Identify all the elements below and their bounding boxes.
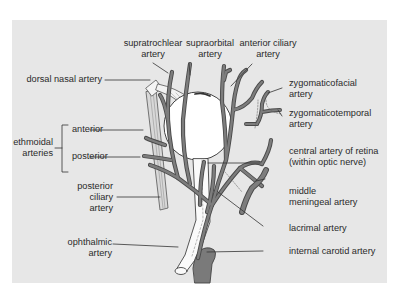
- label-line: central artery of retina: [289, 146, 378, 157]
- label-line: artery: [50, 248, 112, 259]
- label-line: ophthalmic: [50, 237, 112, 248]
- label-central-artery-of-retina: central artery of retina (within optic n…: [289, 146, 378, 168]
- label-line: anterior ciliary: [230, 38, 306, 49]
- label-line: middle: [289, 186, 357, 197]
- label-internal-carotid-artery: internal carotid artery: [289, 246, 375, 257]
- label-line: arteries: [2, 148, 53, 159]
- label-zygomaticofacial-artery: zygomaticofacial artery: [289, 78, 357, 100]
- label-line: meningeal artery: [289, 197, 357, 208]
- label-line: artery: [230, 49, 306, 60]
- label-zygomaticotemporal-artery: zygomaticotemporal artery: [289, 108, 371, 130]
- label-line: artery: [289, 119, 371, 130]
- label-line: artery: [289, 89, 357, 100]
- label-anterior-ciliary-artery: anterior ciliary artery: [230, 38, 306, 60]
- label-line: artery: [60, 203, 113, 214]
- label-line: zygomaticofacial: [289, 78, 357, 89]
- label-line: (within optic nerve): [289, 157, 378, 168]
- label-ethmoidal-anterior: anterior: [72, 124, 103, 135]
- label-dorsal-nasal-artery: dorsal nasal artery: [20, 74, 102, 85]
- label-lacrimal-artery: lacrimal artery: [289, 223, 347, 234]
- label-ophthalmic-artery: ophthalmic artery: [50, 237, 112, 259]
- label-posterior-ciliary-artery: posterior ciliary artery: [60, 181, 113, 214]
- label-line: ciliary: [60, 192, 113, 203]
- label-ethmoidal-arteries: ethmoidal arteries: [2, 137, 53, 159]
- label-line: zygomaticotemporal: [289, 108, 371, 119]
- label-line: ethmoidal: [2, 137, 53, 148]
- label-middle-meningeal-artery: middle meningeal artery: [289, 186, 357, 208]
- label-line: posterior: [60, 181, 113, 192]
- label-ethmoidal-posterior: posterior: [72, 151, 108, 162]
